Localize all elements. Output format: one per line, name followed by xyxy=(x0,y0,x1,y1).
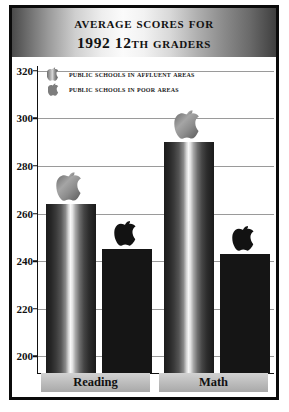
apple-icon xyxy=(56,171,86,205)
y-axis-tick-label: 300 xyxy=(17,112,34,124)
chart-title-line-2: 1992 12th Graders xyxy=(77,33,211,53)
legend-label-poor: Public Schools in Poor Areas xyxy=(69,85,179,94)
gridline xyxy=(38,166,274,167)
chart-title-line-1: Average Scores for xyxy=(74,13,213,33)
y-axis-tick-label: 320 xyxy=(17,65,34,77)
x-axis-category-label: Reading xyxy=(73,375,117,390)
plot-area: 200220240260280300320ReadingMath xyxy=(37,66,274,374)
x-axis-category-band: Math xyxy=(159,373,268,392)
x-axis-category-label: Math xyxy=(199,375,228,390)
y-axis-tick-mark xyxy=(33,70,38,72)
legend-item-affluent: Public Schools in Affluent Areas xyxy=(47,67,262,81)
bar-math-series-1 xyxy=(164,142,214,373)
apple-icon xyxy=(47,67,60,81)
y-axis-tick-mark xyxy=(33,213,38,215)
y-axis-tick-label: 240 xyxy=(17,255,34,267)
y-axis-tick-mark xyxy=(33,118,38,120)
y-axis-tick-label: 260 xyxy=(17,208,34,220)
legend-item-poor: Public Schools in Poor Areas xyxy=(47,82,262,96)
legend-label-affluent: Public Schools in Affluent Areas xyxy=(69,70,195,79)
gridline xyxy=(38,118,274,119)
apple-icon xyxy=(47,82,60,96)
y-axis-tick-mark xyxy=(33,260,38,262)
y-axis-tick-mark xyxy=(33,165,38,167)
y-axis-tick-label: 280 xyxy=(17,160,34,172)
bar-reading-series-2 xyxy=(102,249,152,373)
y-axis-tick-label: 220 xyxy=(17,303,34,315)
apple-icon xyxy=(114,220,140,250)
bar-math-series-2 xyxy=(220,254,270,373)
y-axis-tick-mark xyxy=(33,308,38,310)
y-axis-tick-label: 200 xyxy=(17,350,34,362)
y-axis-tick-mark xyxy=(33,356,38,358)
chart-legend: Public Schools in Affluent Areas Public … xyxy=(47,67,262,97)
apple-icon xyxy=(174,109,204,143)
x-axis-category-band: Reading xyxy=(41,373,150,392)
chart-title-banner: Average Scores for 1992 12th Graders xyxy=(12,8,276,57)
chart-figure: Average Scores for 1992 12th Graders 200… xyxy=(0,0,289,412)
apple-icon xyxy=(232,225,258,255)
bar-reading-series-1 xyxy=(46,204,96,373)
